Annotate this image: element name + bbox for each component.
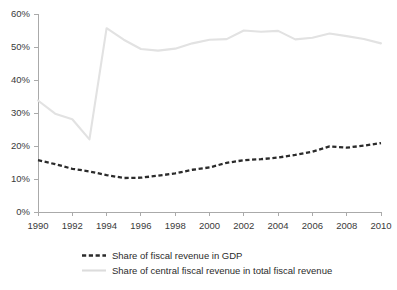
- y-axis-line-group: [34, 14, 38, 212]
- x-axis-tick-label: 1996: [130, 220, 151, 231]
- line-chart: 0%10%20%30%40%50%60% 1990199219941996199…: [0, 0, 397, 290]
- x-axis-tick-label: 2004: [268, 220, 289, 231]
- x-axis-tick-labels: 1990199219941996199820002002200420062008…: [27, 220, 391, 231]
- y-axis-tick-label: 50%: [11, 41, 31, 52]
- x-axis-tick-label: 1992: [62, 220, 83, 231]
- y-axis-tick-label: 60%: [11, 8, 31, 19]
- x-axis-line-group: [38, 212, 381, 216]
- y-axis-tick-label: 0%: [16, 206, 30, 217]
- y-axis-tick-label: 40%: [11, 74, 31, 85]
- x-axis-tick-label: 1994: [96, 220, 117, 231]
- x-axis-tick-label: 2010: [370, 220, 391, 231]
- legend-label: Share of central fiscal revenue in total…: [112, 265, 332, 276]
- chart-container: 0%10%20%30%40%50%60% 1990199219941996199…: [0, 0, 397, 290]
- chart-legend: Share of fiscal revenue in GDPShare of c…: [82, 250, 332, 276]
- x-axis-tick-label: 1998: [165, 220, 186, 231]
- y-axis-tick-label: 20%: [11, 140, 31, 151]
- x-axis-tick-label: 2008: [336, 220, 357, 231]
- series-line: [38, 143, 381, 178]
- series-lines: [38, 28, 381, 178]
- series-line: [38, 28, 381, 139]
- legend-label: Share of fiscal revenue in GDP: [112, 250, 242, 261]
- y-axis-tick-label: 10%: [11, 173, 31, 184]
- x-axis-tick-label: 1990: [27, 220, 48, 231]
- x-axis-tick-label: 2006: [302, 220, 323, 231]
- y-axis-tick-labels: 0%10%20%30%40%50%60%: [11, 8, 31, 217]
- x-axis-tick-label: 2000: [199, 220, 220, 231]
- x-axis-tick-label: 2002: [233, 220, 254, 231]
- y-axis-tick-label: 30%: [11, 107, 31, 118]
